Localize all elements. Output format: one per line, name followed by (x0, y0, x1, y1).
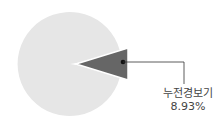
leader-line (123, 62, 184, 84)
slice-label-percent: 8.93% (158, 100, 218, 113)
slice-label-name: 누전경보기 (158, 87, 218, 100)
slice-label: 누전경보기 8.93% (158, 87, 218, 113)
